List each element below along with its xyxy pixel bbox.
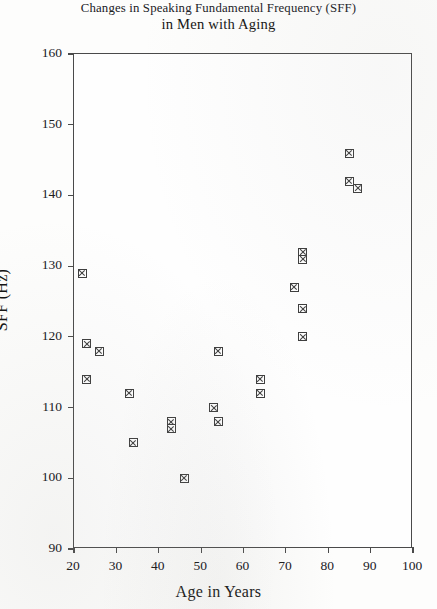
data-point-marker <box>82 339 91 348</box>
x-axis-tick-label: 30 <box>109 558 123 574</box>
data-point-marker <box>256 375 265 384</box>
y-axis-tick-label: 160 <box>0 45 62 61</box>
y-axis-tick-label: 90 <box>0 540 62 556</box>
y-axis-tick-label: 110 <box>0 399 62 415</box>
data-point-marker <box>167 424 176 433</box>
x-axis-tick-label: 70 <box>278 558 292 574</box>
y-axis-label: SFF (Hz) <box>0 269 11 331</box>
y-axis-tick-label: 140 <box>0 186 62 202</box>
x-axis-tick <box>370 547 371 553</box>
x-axis-tick-label: 40 <box>151 558 165 574</box>
chart-title: Changes in Speaking Fundamental Frequenc… <box>0 2 437 33</box>
data-point-marker <box>180 474 189 483</box>
data-point-marker <box>290 283 299 292</box>
data-point-marker <box>298 332 307 341</box>
x-axis-tick <box>412 547 413 553</box>
data-point-marker <box>125 389 134 398</box>
chart-title-line-2: in Men with Aging <box>0 17 437 33</box>
x-axis-tick <box>116 547 117 553</box>
y-axis-tick-label: 100 <box>0 469 62 485</box>
x-axis-tick-label: 100 <box>402 558 422 574</box>
y-axis-tick <box>68 478 74 479</box>
x-axis-tick <box>328 547 329 553</box>
y-axis-tick <box>68 407 74 408</box>
y-axis-tick <box>68 336 74 337</box>
data-point-marker <box>298 255 307 264</box>
data-point-marker <box>353 184 362 193</box>
data-point-marker <box>256 389 265 398</box>
data-point-marker <box>78 269 87 278</box>
data-point-marker <box>298 304 307 313</box>
x-axis-tick-label: 90 <box>363 558 377 574</box>
y-axis-tick <box>68 53 74 54</box>
x-axis-tick <box>73 547 74 553</box>
x-axis-label: Age in Years <box>0 583 437 601</box>
y-axis-tick <box>68 266 74 267</box>
data-point-marker <box>95 347 104 356</box>
y-axis-tick <box>68 124 74 125</box>
x-axis-tick-label: 60 <box>236 558 250 574</box>
x-axis-tick-label: 20 <box>66 558 80 574</box>
data-point-marker <box>214 347 223 356</box>
plot-area <box>73 53 412 548</box>
x-axis-tick <box>243 547 244 553</box>
x-axis-tick <box>285 547 286 553</box>
data-point-marker <box>345 149 354 158</box>
scatter-chart-figure: Changes in Speaking Fundamental Frequenc… <box>0 0 437 609</box>
data-point-marker <box>82 375 91 384</box>
chart-title-line-1: Changes in Speaking Fundamental Frequenc… <box>0 2 437 16</box>
y-axis-tick-label: 120 <box>0 328 62 344</box>
x-axis-tick-label: 50 <box>193 558 207 574</box>
y-axis-tick <box>68 195 74 196</box>
x-axis-tick <box>201 547 202 553</box>
x-axis-tick-label: 80 <box>321 558 335 574</box>
data-point-marker <box>129 438 138 447</box>
data-point-marker <box>214 417 223 426</box>
data-point-marker <box>209 403 218 412</box>
y-axis-tick-label: 150 <box>0 116 62 132</box>
y-axis-tick-label: 130 <box>0 257 62 273</box>
x-axis-tick <box>158 547 159 553</box>
